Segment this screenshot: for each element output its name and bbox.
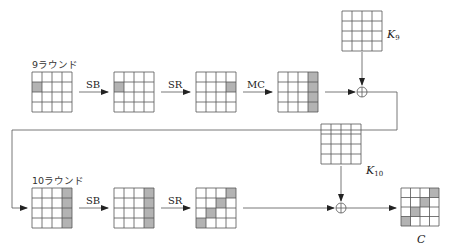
shaded-byte <box>206 208 216 218</box>
shaded-byte <box>144 208 154 218</box>
shaded-byte <box>196 218 206 228</box>
shaded-byte <box>308 102 318 112</box>
round-9-label: 9ラウンド <box>32 59 78 70</box>
op-label-sb-10: SB <box>86 195 100 206</box>
shaded-byte <box>62 208 72 218</box>
shaded-byte <box>308 82 318 92</box>
state-grid-r10-after-SR <box>196 188 236 228</box>
shaded-byte <box>411 207 421 217</box>
ciphertext-grid <box>401 188 439 226</box>
op-label-mc-9: MC <box>247 79 265 90</box>
shaded-byte <box>308 72 318 82</box>
xor-icon <box>357 87 367 97</box>
op-label-sr-10: SR <box>168 195 183 206</box>
round-key-grid-k9 <box>342 11 382 51</box>
shaded-byte <box>62 188 72 198</box>
shaded-byte <box>216 198 226 208</box>
state-grid-r9-after-SB <box>114 72 154 112</box>
state-grid-r9-input <box>32 72 72 112</box>
shaded-byte <box>144 188 154 198</box>
ciphertext-label: C <box>417 233 426 246</box>
state-grid-r9-after-MC <box>278 72 318 112</box>
aes-round-diagram: 9ラウンド 10ラウンド SB SR MC K9 SB SR K10 C <box>0 0 452 249</box>
shaded-byte <box>430 188 440 198</box>
shaded-byte <box>226 82 236 92</box>
state-grid-r10-input <box>32 188 72 228</box>
state-grid-r9-after-SR <box>196 72 236 112</box>
shaded-byte <box>32 82 42 92</box>
shaded-byte <box>144 218 154 228</box>
shaded-byte <box>308 92 318 102</box>
shaded-byte <box>62 218 72 228</box>
op-label-sr-9: SR <box>168 79 183 90</box>
shaded-byte <box>62 198 72 208</box>
xor-icon <box>336 203 346 213</box>
shaded-byte <box>401 217 411 227</box>
shaded-byte <box>114 82 124 92</box>
state-grid-r10-after-SB <box>114 188 154 228</box>
key-10-label: K10 <box>365 164 383 178</box>
shaded-byte <box>226 188 236 198</box>
round-10-label: 10ラウンド <box>32 175 84 186</box>
key-9-label: K9 <box>386 28 400 42</box>
shaded-byte <box>420 198 430 208</box>
shaded-byte <box>144 198 154 208</box>
op-label-sb-9: SB <box>86 79 100 90</box>
round-10-arrows <box>79 166 396 208</box>
